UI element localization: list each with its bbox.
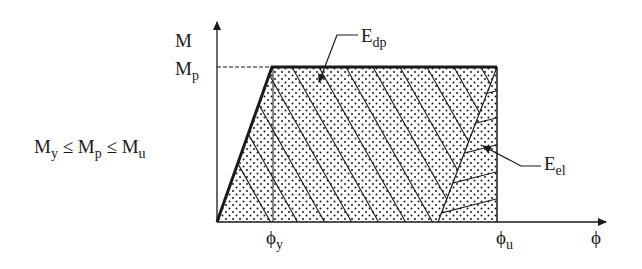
edp-label: Edp	[361, 25, 387, 50]
hatch-line	[504, 60, 599, 230]
moment-inequality: My ≤ Mp ≤ Mu	[34, 136, 146, 161]
eel-label: Eel	[544, 153, 566, 178]
x-axis-label: ϕ	[591, 227, 601, 248]
hatch-line	[430, 225, 500, 243]
phi-y-tick-label: ϕy	[266, 227, 283, 252]
y-axis-label: M	[175, 30, 192, 51]
moment-curvature-diagram: M Mp My ≤ Mp ≤ Mu Edp Eel ϕy ϕu ϕ	[0, 0, 642, 269]
mp-tick-label: Mp	[175, 58, 199, 83]
phi-u-tick-label: ϕu	[496, 227, 513, 252]
